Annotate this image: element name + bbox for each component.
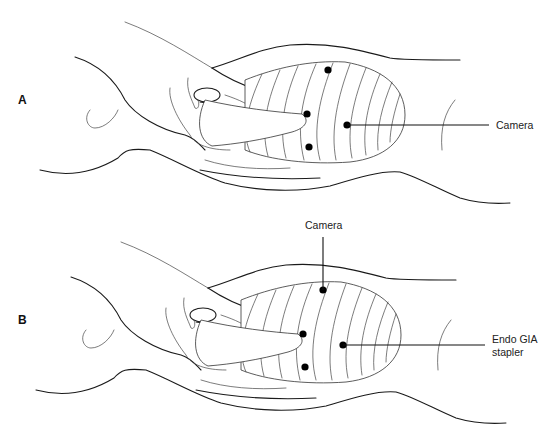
panel-b-drawing <box>36 242 506 423</box>
panel-label-b: B <box>18 313 27 327</box>
port-marker <box>303 110 310 117</box>
port-marker <box>301 363 308 370</box>
port-marker <box>299 330 306 337</box>
callout-stapler-line1: Endo GIA <box>492 333 538 345</box>
panel-label-a: A <box>18 93 27 107</box>
port-marker <box>305 143 312 150</box>
illustration <box>0 0 558 439</box>
callout-stapler-line2: stapler <box>492 346 524 358</box>
port-marker <box>324 66 331 73</box>
panel-a-drawing <box>40 22 510 203</box>
figure: A Camera B Camera Endo GIA stapler <box>0 0 558 439</box>
callout-camera-b: Camera <box>305 219 342 231</box>
callout-camera-a: Camera <box>496 119 533 131</box>
